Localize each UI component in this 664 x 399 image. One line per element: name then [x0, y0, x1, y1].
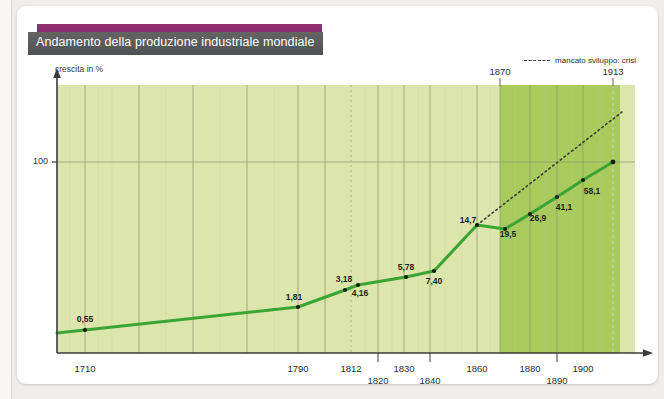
point-label-3-18: 3,18	[336, 274, 353, 284]
point-label-0-55: 0,55	[77, 314, 94, 324]
x-label-1900: 1900	[572, 363, 593, 374]
point-label-4-16: 4,16	[352, 288, 369, 298]
x-tick-marks	[378, 353, 557, 362]
point-label-19-5: 19,5	[500, 229, 517, 239]
x-label-1820: 1820	[367, 375, 388, 386]
top-year-1870: 1870	[489, 66, 510, 77]
top-year-1913: 1913	[602, 66, 623, 77]
x-label-1830: 1830	[393, 363, 414, 374]
x-label-1710: 1710	[74, 363, 95, 374]
point-label-41-1: 41,1	[556, 202, 573, 212]
band-light	[57, 85, 500, 353]
y-axis-arrow	[53, 68, 61, 78]
x-axis-arrow	[643, 349, 653, 357]
x-label-1880: 1880	[519, 363, 540, 374]
top-marker-ticks	[500, 78, 613, 86]
x-label-1890: 1890	[546, 375, 567, 386]
x-label-1860: 1860	[466, 363, 487, 374]
point-label-14-7: 14,7	[460, 215, 477, 225]
point-label-58-1: 58,1	[584, 186, 601, 196]
point-label-26-9: 26,9	[530, 213, 547, 223]
x-label-1840: 1840	[419, 375, 440, 386]
chart-canvas	[0, 0, 664, 399]
band-light-tail	[620, 85, 635, 353]
point-label-5-78: 5,78	[398, 262, 415, 272]
x-label-1790: 1790	[287, 363, 308, 374]
x-label-1812: 1812	[340, 363, 361, 374]
point-label-1-81: 1,81	[286, 292, 303, 302]
point-label-7-40: 7,40	[426, 276, 443, 286]
band-dark	[500, 85, 620, 353]
